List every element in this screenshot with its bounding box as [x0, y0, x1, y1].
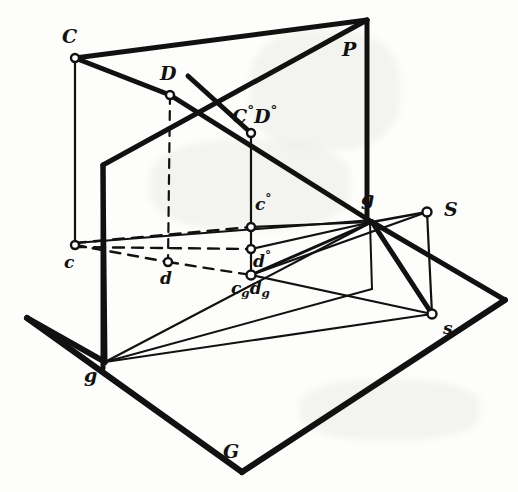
degree-icon: °	[265, 192, 271, 206]
node-C	[71, 54, 79, 62]
ground-plane-edge-far-right	[372, 222, 505, 300]
plan-line-d-to-cgdg-dashed	[168, 262, 251, 275]
label-C: C	[62, 27, 77, 46]
ray-g-to-s	[372, 222, 432, 314]
node-c	[71, 241, 79, 249]
node-c0	[247, 223, 255, 231]
label-c0: c°	[255, 193, 271, 213]
degree-icon: °	[270, 102, 277, 118]
label-S: S	[444, 200, 458, 219]
node-D	[166, 91, 174, 99]
label-P: P	[342, 40, 356, 59]
ground-trace-line-g	[27, 318, 105, 362]
subscript-g: g	[241, 286, 249, 300]
label-D: D	[160, 64, 176, 83]
picture-plane-fold-edge	[103, 20, 367, 165]
degree-icon: °	[247, 102, 254, 118]
ground-line-leftg-to-s	[105, 314, 432, 362]
figure-page: C D P C°D° c° d° g S c d cgdg s g G	[0, 0, 518, 492]
label-cgdg: cgdg	[231, 280, 270, 300]
ray-S-to-g	[372, 212, 427, 222]
projector-S-to-s	[427, 212, 432, 314]
label-d0: d°	[253, 250, 271, 270]
degree-icon: °	[265, 249, 271, 263]
ground-plane-edge-left	[27, 318, 242, 472]
node-C0D0	[247, 129, 255, 137]
label-G: G	[223, 442, 239, 461]
label-c: c	[64, 254, 74, 271]
node-S	[423, 208, 432, 217]
ray-cgdg-to-s	[251, 275, 432, 314]
node-d	[164, 258, 172, 266]
projector-D-to-d	[168, 95, 170, 262]
subscript-g: g	[262, 286, 270, 300]
object-line-CD	[75, 58, 170, 95]
label-s: s	[443, 320, 453, 337]
label-g-trace: g	[84, 366, 97, 385]
label-g-vanishing: g	[361, 189, 374, 208]
node-s	[428, 310, 437, 319]
picture-plane-top-edge	[75, 20, 367, 58]
label-C0D0: C°D°	[232, 104, 277, 126]
label-d: d	[160, 270, 172, 287]
ground-plane-edge-right	[242, 300, 505, 472]
perspective-construction-diagram	[0, 0, 518, 492]
